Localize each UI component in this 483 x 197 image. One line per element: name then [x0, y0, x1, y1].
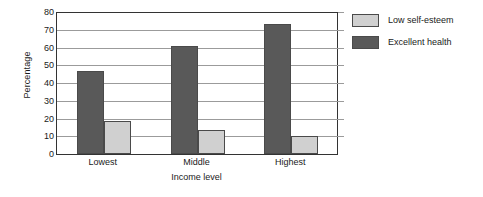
y-axis-tick-label: 40	[44, 79, 54, 88]
bar-group	[264, 12, 318, 154]
bar-group	[77, 12, 131, 154]
y-axis-tick-label: 20	[44, 114, 54, 123]
y-axis-tick-mark	[338, 101, 344, 102]
y-axis-tick-mark	[338, 48, 344, 49]
y-axis-tick-label: 70	[44, 25, 54, 34]
y-axis-tick-mark	[338, 30, 344, 31]
legend-label: Low self-esteem	[388, 15, 454, 25]
y-axis-tick-label: 80	[44, 8, 54, 17]
y-axis-tick-mark	[338, 119, 344, 120]
bar-chart: Percentage 01020304050607080 LowestMiddl…	[0, 0, 483, 197]
x-axis-tick-label: Highest	[275, 157, 306, 168]
bars-layer	[57, 12, 338, 154]
legend-swatch	[352, 14, 379, 27]
legend-item: Excellent health	[352, 34, 480, 50]
legend-label: Excellent health	[388, 37, 452, 47]
y-axis-tick-mark	[338, 12, 344, 13]
x-axis-title: Income level	[56, 172, 337, 182]
plot-area	[56, 12, 338, 155]
bar-group	[171, 12, 225, 154]
y-axis-tick-labels: 01020304050607080	[26, 12, 54, 154]
x-axis-tick-labels: LowestMiddleHighest	[56, 157, 337, 171]
y-axis-tick-mark	[338, 136, 344, 137]
bar	[198, 130, 225, 154]
y-axis-tick-label: 10	[44, 132, 54, 141]
y-axis-tick-label: 50	[44, 61, 54, 70]
y-axis-tick-label: 60	[44, 43, 54, 52]
y-axis-tick-label: 30	[44, 96, 54, 105]
y-axis-tick-mark	[338, 83, 344, 84]
legend-item: Low self-esteem	[352, 12, 480, 28]
bar	[77, 71, 104, 154]
x-axis-tick-label: Middle	[183, 157, 210, 168]
y-axis-tick-label: 0	[49, 150, 54, 159]
bar	[291, 136, 318, 154]
bar	[171, 46, 198, 154]
y-axis-tick-mark	[338, 65, 344, 66]
legend: Low self-esteemExcellent health	[352, 12, 480, 56]
bar	[264, 24, 291, 154]
x-axis-tick-label: Lowest	[89, 157, 118, 168]
legend-swatch	[352, 36, 379, 49]
bar	[104, 121, 131, 154]
